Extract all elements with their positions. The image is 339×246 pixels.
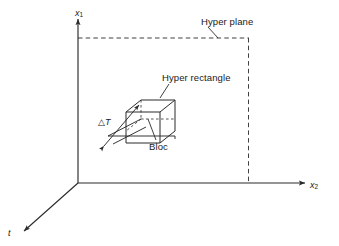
- axis-label-t: t: [8, 229, 11, 238]
- axis-group: [24, 19, 305, 231]
- delta-t-letter: T: [105, 117, 111, 127]
- hyper-rectangle-leader-line: [160, 84, 169, 98]
- axis-label-x1: x1: [75, 9, 83, 19]
- label-hyper-plane: Hyper plane: [201, 17, 253, 27]
- hyper-plane-leader-line: [208, 27, 218, 38]
- axis-label-t-base: t: [8, 228, 11, 238]
- cube-depth-top-right: [160, 100, 175, 112]
- diagram-canvas: [0, 0, 339, 246]
- label-delta-t: △T: [98, 118, 111, 127]
- figure-root: Hyper plane Hyper rectangle Bloc x1 x2 t…: [0, 0, 339, 246]
- hyper-rectangle-shape: [126, 100, 175, 143]
- axis-label-x1-subscript: 1: [80, 11, 84, 18]
- bloc-leader-line: [148, 119, 156, 140]
- cube-hidden-edge-left: [126, 119, 141, 131]
- label-bloc: Bloc: [149, 142, 168, 152]
- axis-t-line: [24, 183, 78, 231]
- axis-label-x2-subscript: 2: [315, 183, 319, 190]
- label-hyper-rectangle: Hyper rectangle: [162, 73, 231, 83]
- axis-label-x2: x2: [310, 181, 318, 191]
- hyper-plane-shape: [78, 38, 249, 183]
